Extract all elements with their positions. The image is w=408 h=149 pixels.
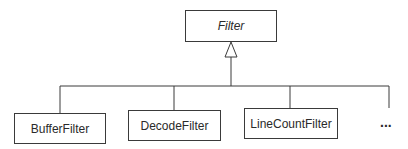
generalization-arrow-icon [225, 42, 237, 57]
class-box-decodefilter: DecodeFilter [128, 110, 221, 141]
class-name-linecountfilter: LineCountFilter [250, 117, 331, 131]
class-name-filter: Filter [218, 19, 245, 33]
class-name-decodefilter: DecodeFilter [140, 119, 208, 133]
class-name-bufferfilter: BufferFilter [31, 122, 89, 136]
class-box-bufferfilter: BufferFilter [14, 113, 106, 144]
more-classes-ellipsis: ... [380, 114, 392, 130]
class-box-filter: Filter [185, 10, 277, 42]
class-box-linecountfilter: LineCountFilter [244, 108, 338, 139]
